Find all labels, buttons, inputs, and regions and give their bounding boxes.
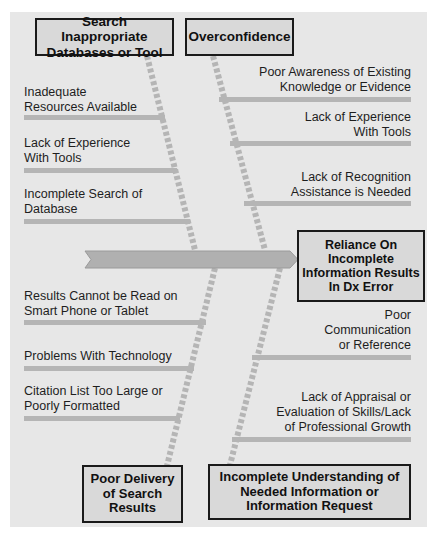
cause-line: Assistance is Needed xyxy=(291,185,411,200)
cause-citation-list: Citation List Too Large or Poorly Format… xyxy=(24,384,163,414)
box-line: Information Request xyxy=(220,499,400,514)
cause-poor-communication: Poor Communication or Reference xyxy=(324,308,411,353)
box-line: Overconfidence xyxy=(188,29,290,44)
rib-tl3 xyxy=(24,219,190,224)
cause-lack-recognition: Lack of Recognition Assistance is Needed xyxy=(291,170,411,200)
rib-tr2 xyxy=(230,141,411,146)
box-line: Reliance On xyxy=(302,238,419,252)
cause-line: Citation List Too Large or xyxy=(24,384,163,399)
cause-lack-experience-left: Lack of Experience With Tools xyxy=(24,136,130,166)
cause-line: Problems With Technology xyxy=(24,349,172,364)
cause-line: Poor Awareness of Existing xyxy=(259,65,411,80)
rib-bl3 xyxy=(24,416,180,421)
rib-tr3 xyxy=(244,201,411,206)
box-line: Search Inappropriate xyxy=(37,14,172,44)
cause-inadequate-resources: Inadequate Resources Available xyxy=(24,85,137,115)
rib-bl2 xyxy=(24,366,194,371)
box-line: Information Results xyxy=(302,266,419,280)
category-search-inappropriate: Search Inappropriate Databases or Tool xyxy=(35,18,174,56)
cause-poor-awareness: Poor Awareness of Existing Knowledge or … xyxy=(259,65,411,95)
cause-line: With Tools xyxy=(305,125,411,140)
cause-line: or Reference xyxy=(324,338,411,353)
box-line: of Search xyxy=(91,487,175,502)
category-poor-delivery: Poor Delivery of Search Results xyxy=(82,465,183,523)
cause-lack-appraisal: Lack of Appraisal or Evaluation of Skill… xyxy=(276,390,411,435)
cause-results-cannot-be-read: Results Cannot be Read on Smart Phone or… xyxy=(24,289,178,319)
rib-br1 xyxy=(252,355,411,360)
cause-lack-experience-right: Lack of Experience With Tools xyxy=(305,110,411,140)
category-overconfidence: Overconfidence xyxy=(185,18,294,56)
cause-line: Lack of Experience xyxy=(24,136,130,151)
cause-line: Incomplete Search of xyxy=(24,187,142,202)
cause-line: Smart Phone or Tablet xyxy=(24,304,178,319)
category-incomplete-understanding: Incomplete Understanding of Needed Infor… xyxy=(208,464,411,520)
cause-incomplete-search: Incomplete Search of Database xyxy=(24,187,142,217)
rib-tl1 xyxy=(24,115,165,120)
box-line: Needed Information or xyxy=(220,485,400,500)
box-line: In Dx Error xyxy=(302,280,419,294)
box-line: Databases or Tool xyxy=(37,45,172,60)
cause-line: With Tools xyxy=(24,151,130,166)
rib-tr1 xyxy=(219,97,411,102)
cause-line: of Professional Growth xyxy=(276,420,411,435)
bone-understanding xyxy=(230,268,280,465)
cause-line: Poor xyxy=(324,308,411,323)
cause-line: Poorly Formatted xyxy=(24,399,163,414)
cause-line: Database xyxy=(24,202,142,217)
cause-line: Results Cannot be Read on xyxy=(24,289,178,304)
cause-line: Communication xyxy=(324,323,411,338)
cause-line: Lack of Appraisal or xyxy=(276,390,411,405)
rib-bl1 xyxy=(24,320,206,325)
effect-box: Reliance On Incomplete Information Resul… xyxy=(297,230,425,302)
box-line: Poor Delivery xyxy=(91,472,175,487)
cause-problems-technology: Problems With Technology xyxy=(24,349,172,364)
bone-overconfidence xyxy=(213,56,265,250)
rib-tl2 xyxy=(24,168,177,173)
box-line: Incomplete Understanding of xyxy=(220,470,400,485)
cause-line: Resources Available xyxy=(24,100,137,115)
cause-line: Knowledge or Evidence xyxy=(259,80,411,95)
cause-line: Lack of Experience xyxy=(305,110,411,125)
cause-line: Inadequate xyxy=(24,85,137,100)
rib-br2 xyxy=(232,437,411,442)
cause-line: Evaluation of Skills/Lack xyxy=(276,405,411,420)
box-line: Results xyxy=(91,501,175,516)
spine-arrow xyxy=(85,251,298,268)
box-line: Incomplete xyxy=(302,252,419,266)
cause-line: Lack of Recognition xyxy=(291,170,411,185)
